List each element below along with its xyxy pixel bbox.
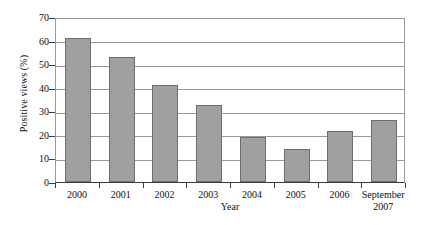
y-axis-tick-label: 0 xyxy=(7,177,49,188)
x-axis-tick-mark xyxy=(55,183,56,188)
bar xyxy=(327,131,353,182)
y-axis-tick-label: 60 xyxy=(7,36,49,47)
x-axis-tick-mark xyxy=(143,183,144,188)
x-axis-tick-label: 2001 xyxy=(99,189,143,201)
x-axis-tick-label: 2002 xyxy=(143,189,187,201)
x-axis-tick-label: 2006 xyxy=(318,189,362,201)
bar xyxy=(240,137,266,182)
x-axis-tick-mark xyxy=(274,183,275,188)
plot-area xyxy=(55,18,405,183)
bar xyxy=(65,38,91,182)
x-axis-tick-label: 2005 xyxy=(274,189,318,201)
x-axis-tick-mark xyxy=(318,183,319,188)
y-axis-tick-label: 50 xyxy=(7,59,49,70)
y-axis-tick-label: 20 xyxy=(7,130,49,141)
x-axis-tick-mark xyxy=(186,183,187,188)
x-axis-tick-label: 2000 xyxy=(55,189,99,201)
bar xyxy=(109,57,135,182)
y-axis-tick-label: 40 xyxy=(7,83,49,94)
y-axis-tick-label: 30 xyxy=(7,106,49,117)
bar xyxy=(284,149,310,182)
x-axis-tick-label: 2004 xyxy=(230,189,274,201)
x-axis-tick-mark xyxy=(99,183,100,188)
x-axis-title: Year xyxy=(55,201,405,212)
y-axis-tick-label: 10 xyxy=(7,153,49,164)
x-axis-tick-mark xyxy=(405,183,406,188)
x-axis-tick-label: 2003 xyxy=(186,189,230,201)
gridline xyxy=(56,42,404,43)
x-axis-tick-mark xyxy=(361,183,362,188)
bar xyxy=(152,85,178,182)
x-axis-tick-mark xyxy=(230,183,231,188)
bar xyxy=(196,105,222,182)
y-axis-tick-label: 70 xyxy=(7,12,49,23)
bar-chart-figure: Positive views (%) 010203040506070 20002… xyxy=(0,0,429,225)
bar xyxy=(371,120,397,182)
